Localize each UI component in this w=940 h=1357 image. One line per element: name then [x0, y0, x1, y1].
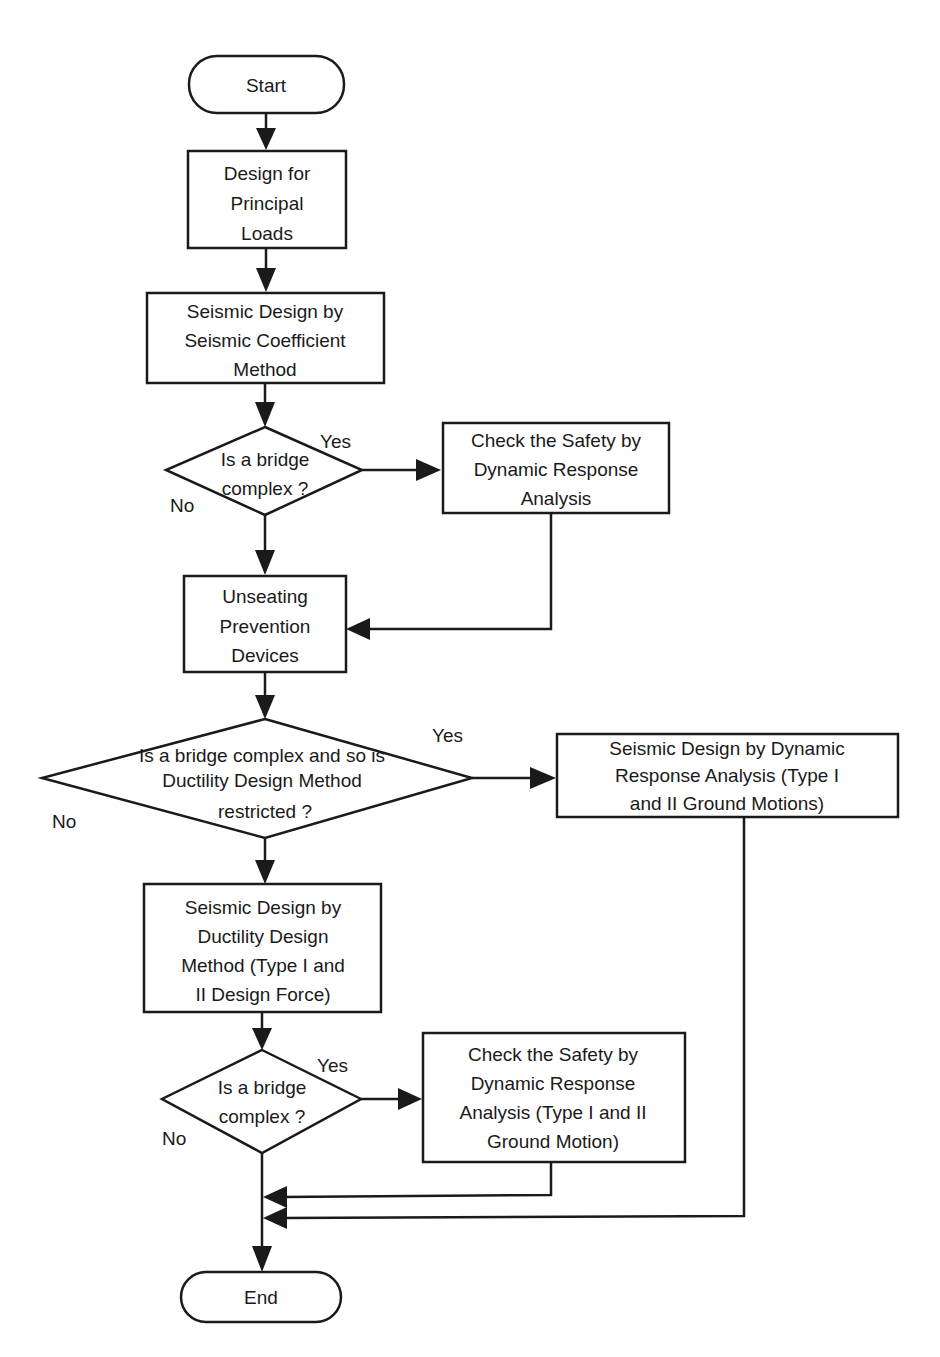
svg-text:II Design Force): II Design Force) — [195, 984, 330, 1005]
arrow-right-icon — [416, 459, 441, 481]
svg-text:Principal: Principal — [231, 193, 304, 214]
svg-text:Analysis (Type I and II: Analysis (Type I and II — [460, 1102, 647, 1123]
arrow-left-icon — [263, 1186, 287, 1208]
no-label: No — [52, 811, 76, 832]
svg-text:Ductility Design: Ductility Design — [198, 926, 329, 947]
svg-text:Ductility Design Method: Ductility Design Method — [162, 770, 362, 791]
decision-bridge-complex-1: Is a bridge complex ? Yes No — [166, 427, 362, 516]
edge-decision3-end — [252, 1153, 272, 1272]
start-terminal: Start — [189, 56, 344, 113]
yes-label: Yes — [317, 1055, 348, 1076]
yes-label: Yes — [432, 725, 463, 746]
edge-seismic-decision1 — [255, 383, 275, 427]
node-seismic-coefficient: Seismic Design by Seismic Coefficient Me… — [147, 293, 384, 383]
svg-text:Dynamic Response: Dynamic Response — [471, 1073, 636, 1094]
svg-text:Dynamic Response: Dynamic Response — [474, 459, 639, 480]
decision-bridge-complex-2: Is a bridge complex ? Yes No — [162, 1050, 361, 1153]
node-check-safety-2: Check the Safety by Dynamic Response Ana… — [423, 1033, 685, 1162]
yes-label: Yes — [320, 431, 351, 452]
end-label: End — [244, 1287, 278, 1308]
svg-text:and II Ground Motions): and II Ground Motions) — [630, 793, 824, 814]
edge-decision1-unseating — [255, 515, 275, 575]
arrow-left-icon — [346, 618, 370, 640]
edge-decision2-ductility — [255, 838, 275, 884]
svg-text:Unseating: Unseating — [222, 586, 308, 607]
decision-ductility-restricted: Is a bridge complex and so is Ductility … — [42, 719, 472, 838]
edge-unseating-decision2 — [255, 672, 275, 719]
svg-text:Prevention: Prevention — [220, 616, 311, 637]
svg-text:Method: Method — [233, 359, 296, 380]
arrow-down-icon — [255, 550, 275, 575]
edge-start-principal — [256, 113, 276, 150]
arrow-right-icon — [398, 1088, 422, 1110]
svg-text:Method (Type I and: Method (Type I and — [181, 955, 345, 976]
no-label: No — [162, 1128, 186, 1149]
svg-text:Devices: Devices — [231, 645, 299, 666]
end-terminal: End — [181, 1272, 341, 1322]
svg-text:Seismic Design by: Seismic Design by — [185, 897, 342, 918]
arrow-down-icon — [255, 402, 275, 427]
svg-text:Is a bridge complex and so is: Is a bridge complex and so is — [139, 745, 385, 766]
edge-check1-unseating — [346, 513, 551, 640]
node-principal-loads: Design for Principal Loads — [188, 151, 346, 248]
svg-text:Is a bridge: Is a bridge — [218, 1077, 307, 1098]
svg-text:Check the Safety by: Check the Safety by — [468, 1044, 639, 1065]
edge-ductility-decision3 — [252, 1012, 272, 1050]
svg-text:Seismic Coefficient: Seismic Coefficient — [184, 330, 346, 351]
edge-decision3-check2 — [361, 1088, 422, 1110]
svg-text:Analysis: Analysis — [521, 488, 592, 509]
node-ductility-design: Seismic Design by Ductility Design Metho… — [144, 884, 381, 1012]
edge-decision1-check1 — [362, 459, 441, 481]
svg-text:Seismic Design by Dynamic: Seismic Design by Dynamic — [609, 738, 844, 759]
no-label: No — [170, 495, 194, 516]
arrow-down-icon — [256, 268, 276, 292]
node-dynamic-response-design: Seismic Design by Dynamic Response Analy… — [557, 734, 898, 817]
edge-principal-seismic — [256, 248, 276, 292]
svg-text:complex ?: complex ? — [219, 1106, 306, 1127]
arrow-down-icon — [255, 695, 275, 719]
arrow-right-icon — [530, 767, 556, 789]
svg-text:Seismic Design by: Seismic Design by — [187, 301, 344, 322]
svg-text:complex ?: complex ? — [222, 478, 309, 499]
node-check-safety-1: Check the Safety by Dynamic Response Ana… — [443, 423, 669, 513]
flowchart: Start Design for Principal Loads Seismic… — [0, 0, 940, 1357]
svg-text:Is a bridge: Is a bridge — [221, 449, 310, 470]
arrow-down-icon — [256, 128, 276, 150]
edge-check2-end — [263, 1162, 551, 1208]
edge-dynamic-end — [263, 817, 744, 1229]
node-unseating-prevention: Unseating Prevention Devices — [184, 576, 346, 672]
svg-text:Ground Motion): Ground Motion) — [487, 1131, 619, 1152]
svg-text:Loads: Loads — [241, 223, 293, 244]
svg-text:Check the Safety by: Check the Safety by — [471, 430, 642, 451]
svg-text:Design for: Design for — [224, 163, 311, 184]
arrow-left-icon — [263, 1207, 287, 1229]
svg-text:Response Analysis (Type I: Response Analysis (Type I — [615, 765, 839, 786]
svg-text:restricted ?: restricted ? — [218, 801, 312, 822]
arrow-down-icon — [252, 1246, 272, 1272]
arrow-down-icon — [255, 860, 275, 884]
edge-decision2-dynamic — [472, 767, 556, 789]
start-label: Start — [246, 75, 287, 96]
arrow-down-icon — [252, 1028, 272, 1050]
